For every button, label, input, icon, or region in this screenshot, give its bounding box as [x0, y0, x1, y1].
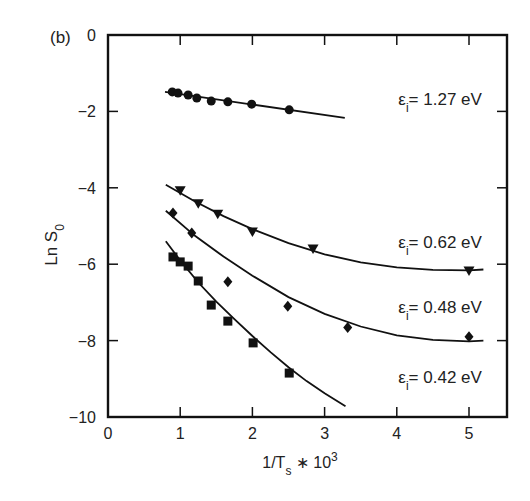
fit-curve — [166, 211, 484, 342]
series — [166, 185, 484, 276]
square-marker — [207, 301, 216, 310]
x-tick-label: 5 — [465, 425, 474, 442]
series-label: εi= 0.48 eV — [398, 298, 482, 323]
diamond-marker — [168, 208, 177, 219]
y-tick-label: −4 — [78, 180, 96, 197]
y-tick-label: −10 — [69, 409, 96, 426]
y-tick-label: 0 — [87, 27, 96, 44]
x-tick-label: 2 — [248, 425, 257, 442]
y-tick-label: −6 — [78, 256, 96, 273]
series-label: εi= 0.42 eV — [398, 368, 482, 393]
square-marker — [184, 262, 193, 271]
square-marker — [194, 277, 203, 286]
square-marker — [285, 369, 294, 378]
circle-marker — [184, 90, 193, 99]
fit-curve — [166, 241, 346, 406]
diamond-marker — [283, 301, 292, 312]
square-marker — [176, 257, 185, 266]
circle-marker — [192, 94, 201, 103]
diamond-marker — [223, 276, 232, 287]
series-label: εi= 0.62 eV — [398, 233, 482, 258]
x-tick-label: 0 — [104, 425, 113, 442]
x-axis-label: 1/Ts ∗ 103 — [262, 450, 338, 478]
series — [166, 208, 484, 343]
chart: 0123450−2−4−6−8−10 (b)1/Ts ∗ 103Ln S0εi=… — [0, 0, 530, 501]
fit-curve — [166, 185, 484, 271]
y-tick-label: −2 — [78, 103, 96, 120]
series — [165, 87, 345, 117]
x-tick-label: 3 — [320, 425, 329, 442]
square-marker — [223, 317, 232, 326]
triangle-marker — [464, 267, 475, 277]
circle-marker — [247, 100, 256, 109]
y-axis-label: Ln S0 — [42, 224, 67, 266]
x-tick-label: 4 — [392, 425, 401, 442]
x-tick-label: 1 — [176, 425, 185, 442]
series — [166, 241, 346, 406]
y-tick-label: −8 — [78, 333, 96, 350]
circle-marker — [207, 97, 216, 106]
square-marker — [249, 338, 258, 347]
series-label: εi= 1.27 eV — [398, 90, 482, 115]
circle-marker — [285, 105, 294, 114]
circle-marker — [223, 97, 232, 106]
triangle-marker — [247, 228, 258, 238]
panel-label: (b) — [50, 28, 71, 47]
circle-marker — [174, 89, 183, 98]
